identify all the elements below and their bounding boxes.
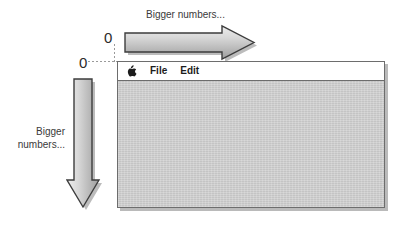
vertical-axis-arrow-icon	[66, 76, 114, 212]
menu-item-file[interactable]: File	[150, 66, 167, 76]
horizontal-guide-line	[88, 61, 118, 62]
menu-bar: File Edit	[118, 62, 384, 81]
vertical-axis-caption: Bigger numbers...	[13, 126, 65, 152]
mac-window: File Edit	[117, 61, 385, 208]
menu-item-edit[interactable]: Edit	[180, 66, 199, 76]
horizontal-origin-label: 0	[104, 30, 112, 45]
vertical-origin-label: 0	[79, 55, 87, 70]
apple-logo-icon[interactable]	[127, 65, 137, 77]
desktop-area[interactable]	[118, 81, 384, 207]
horizontal-axis-arrow-icon	[118, 24, 258, 66]
horizontal-axis-caption: Bigger numbers...	[146, 9, 225, 22]
